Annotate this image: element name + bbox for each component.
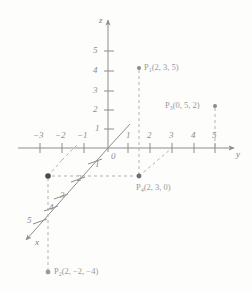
x-axis-label: x (35, 238, 39, 247)
y-tick-label-neg3: −3 (33, 131, 44, 140)
point-dot-corner[interactable] (45, 173, 51, 179)
y-tick-label-3: 3 (169, 131, 174, 140)
x-tick-5 (33, 219, 47, 224)
y-tick-label-4: 4 (191, 131, 196, 140)
x-tick-label-4: 4 (49, 203, 54, 212)
dashed-p4-to-yaxis-3 (139, 148, 172, 176)
point-label-p3: P3(0, 5, 2) (165, 101, 200, 110)
dashed-corner-to-yaxis-neg2b (62, 144, 78, 160)
point-dot-p1[interactable] (137, 66, 141, 70)
y-tick-label-2: 2 (147, 131, 152, 140)
point-dot-p4[interactable] (137, 174, 142, 179)
point-label-p4-sub: 4 (141, 187, 144, 193)
z-axis-label: z (99, 16, 103, 25)
x-tick-label-3: 3 (60, 191, 65, 200)
point-dot-p3[interactable] (213, 104, 217, 108)
point-label-p3-sub: 3 (170, 105, 173, 111)
z-tick-label-3: 3 (93, 86, 98, 95)
y-axis-label: y (236, 150, 240, 159)
y-tick-label-neg1: −1 (77, 131, 88, 140)
point-label-p4-coords: (2, 3, 0) (144, 182, 171, 192)
figure-canvas (0, 0, 252, 292)
point-label-p1-sub: 1 (149, 67, 152, 73)
point-label-p2-coords: (2, −2, −4) (62, 266, 99, 276)
z-tick-label-4: 4 (93, 66, 98, 75)
point-label-p3-coords: (0, 5, 2) (173, 100, 200, 110)
point-label-p1-coords: (2, 3, 5) (152, 62, 179, 72)
x-tick-label-2: 2 (77, 174, 82, 183)
point-label-p1: P1(2, 3, 5) (144, 63, 179, 72)
origin-label: 0 (111, 152, 116, 161)
y-tick-label-1: 1 (126, 131, 131, 140)
x-tick-label-1: 1 (95, 160, 100, 169)
y-tick-label-5: 5 (212, 131, 217, 140)
y-tick-label-neg2: −2 (55, 131, 66, 140)
z-tick-label-5: 5 (93, 46, 98, 55)
dashed-corner-to-yaxis-neg2 (48, 160, 62, 176)
coordinate-system-figure: z 5 4 3 2 1 0 y −3 −2 −1 1 2 3 4 5 x 1 2… (0, 0, 252, 292)
point-dot-p2[interactable] (46, 270, 51, 275)
point-label-p2: P2(2, −2, −4) (54, 267, 98, 276)
point-label-p4: P4(2, 3, 0) (136, 183, 171, 192)
point-label-p2-sub: 2 (59, 271, 62, 277)
x-tick-label-5: 5 (27, 216, 32, 225)
z-tick-label-2: 2 (93, 105, 98, 114)
z-tick-label-1: 1 (95, 124, 100, 133)
